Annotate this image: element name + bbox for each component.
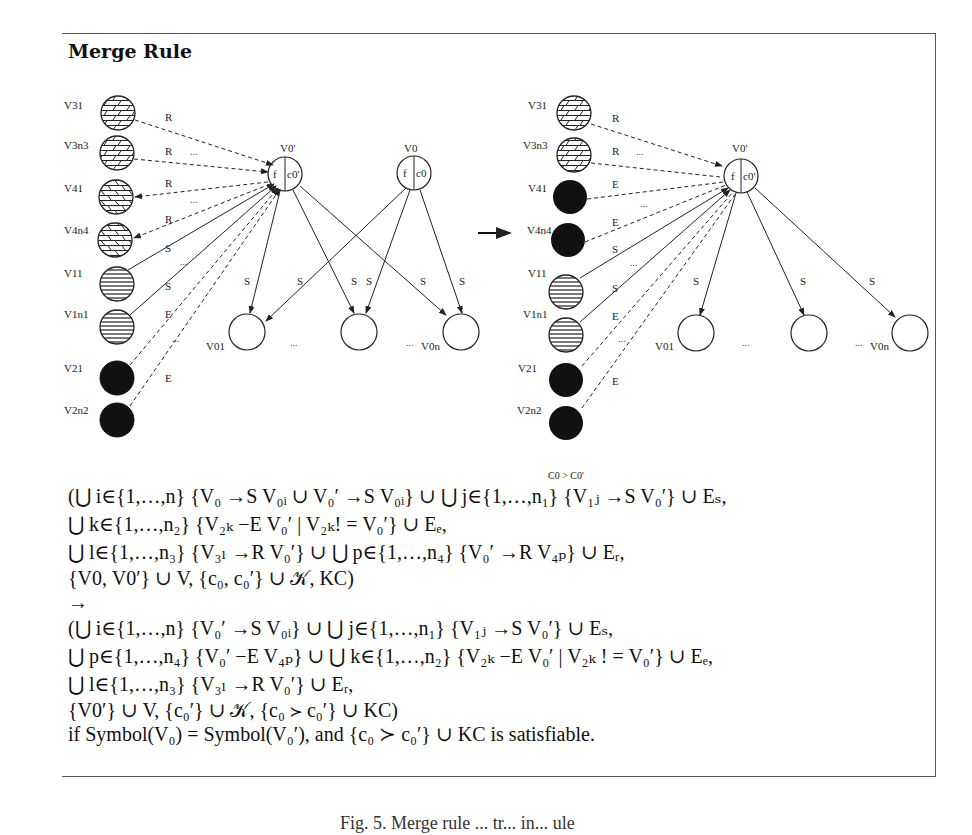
svg-text:c0': c0' <box>287 168 299 180</box>
figure-caption: Fig. 5. Merge rule ... tr... in... ule <box>340 813 575 834</box>
svg-text:S: S <box>351 275 357 287</box>
svg-text:f: f <box>731 170 735 182</box>
node-v21 <box>100 361 134 395</box>
svg-text:R: R <box>165 145 173 157</box>
svg-text:V41: V41 <box>528 182 547 194</box>
svg-text:R: R <box>165 177 173 189</box>
svg-text:f: f <box>403 167 407 179</box>
formula-line: ⋃ p∈{1,…,n₄} {V₀′ −E V₄ₚ} ∪ ⋃ k∈{1,…,n₂}… <box>68 644 713 668</box>
svg-text:S: S <box>693 275 699 287</box>
svg-text:V0n: V0n <box>870 340 889 352</box>
svg-text:...: ... <box>406 337 414 348</box>
node-v31 <box>101 96 135 130</box>
svg-text:S: S <box>244 275 250 287</box>
svg-text:S: S <box>165 242 171 254</box>
svg-text:V31: V31 <box>528 99 547 111</box>
node-label: V3n3 <box>64 139 89 151</box>
svg-text:E: E <box>612 216 619 228</box>
svg-text:...: ... <box>636 146 644 157</box>
formula-line: {V0′} ∪ V, {c₀′} ∪ 𝒦, {c₀ ≻ c₀′} ∪ KC) <box>68 698 398 722</box>
node-v2n2 <box>100 403 134 437</box>
svg-text:...: ... <box>630 257 638 268</box>
svg-text:R: R <box>165 213 173 225</box>
svg-text:...: ... <box>640 198 648 209</box>
node-label: V2n2 <box>64 404 88 416</box>
svg-text:E: E <box>165 308 172 320</box>
svg-text:R: R <box>612 112 620 124</box>
node-v1n1 <box>100 310 134 344</box>
svg-text:...: ... <box>618 333 626 344</box>
svg-text:c0': c0' <box>743 170 755 182</box>
svg-text:...: ... <box>190 146 198 157</box>
node-label: V11 <box>64 267 83 279</box>
svg-text:V1n1: V1n1 <box>523 308 547 320</box>
svg-text:E: E <box>165 372 172 384</box>
svg-text:S: S <box>366 275 372 287</box>
svg-text:S: S <box>420 275 426 287</box>
svg-text:...: ... <box>190 194 198 205</box>
svg-text:V11: V11 <box>528 267 547 279</box>
svg-text:S: S <box>297 275 303 287</box>
svg-text:c0: c0 <box>416 167 427 179</box>
svg-text:V3n3: V3n3 <box>523 139 548 151</box>
node-v11 <box>100 267 134 301</box>
node-label: V31 <box>64 99 83 111</box>
svg-text:R: R <box>165 111 173 123</box>
svg-text:V01: V01 <box>206 340 225 352</box>
node-v0mid <box>341 314 377 350</box>
formula-line: (⋃ i∈{1,…,n} {V₀ →S V₀ᵢ ∪ V₀′ →S V₀ᵢ} ∪ … <box>68 484 726 508</box>
formula-line: {V0, V0′} ∪ V, {c₀, c₀′} ∪ 𝒦, KC) <box>68 566 354 590</box>
svg-text:V2n2: V2n2 <box>517 404 541 416</box>
formula-line: ⋃ k∈{1,…,n₂} {V₂ₖ −E V₀′ | V₂ₖ! = V₀′} ∪… <box>68 512 447 536</box>
node-v01 <box>229 314 265 350</box>
formula-line: if Symbol(V₀) = Symbol(V₀′), and {c₀ ≻ c… <box>68 722 595 746</box>
svg-text:E: E <box>612 310 619 322</box>
node-label-v0: V0 <box>404 142 418 154</box>
node-v4n4 <box>98 223 132 257</box>
node-label: V21 <box>64 362 83 374</box>
svg-text:S: S <box>612 282 618 294</box>
svg-text:R: R <box>612 145 620 157</box>
svg-text:V21: V21 <box>518 362 537 374</box>
svg-text:...: ... <box>742 337 750 348</box>
formula-line: ⋃ l∈{1,…,n₃} {V₃ₗ →R V₀′} ∪ Eᵣ, <box>68 672 353 696</box>
svg-text:V4n4: V4n4 <box>527 224 552 236</box>
svg-text:V0n: V0n <box>421 340 440 352</box>
svg-text:E: E <box>612 178 619 190</box>
formula-line: (⋃ i∈{1,…,n} {V₀′ →S V₀ᵢ} ∪ ⋃ j∈{1,…,n₁}… <box>68 616 613 640</box>
node-label-v0prime: V0' <box>280 142 295 154</box>
svg-text:f: f <box>273 168 277 180</box>
left-graph: V31 V3n3 V41 V4n4 V11 V1n1 V21 V2n2 V0' … <box>64 96 479 437</box>
node-label: V1n1 <box>64 308 88 320</box>
svg-text:S: S <box>459 275 465 287</box>
node-v3n3 <box>100 136 134 170</box>
merge-rule-diagram: V31 V3n3 V41 V4n4 V11 V1n1 V21 V2n2 V0' … <box>0 0 972 460</box>
svg-text:V0': V0' <box>732 142 747 154</box>
svg-text:...: ... <box>172 333 180 344</box>
svg-text:S: S <box>800 275 806 287</box>
priority-annotation: C0 > C0' <box>548 470 584 481</box>
svg-text:V01: V01 <box>655 340 674 352</box>
svg-text:E: E <box>612 375 619 387</box>
svg-text:S: S <box>869 275 875 287</box>
node-v0n <box>443 314 479 350</box>
svg-text:...: ... <box>290 337 298 348</box>
formula-line: → <box>68 590 88 614</box>
node-v41 <box>99 180 133 214</box>
svg-text:S: S <box>612 243 618 255</box>
svg-text:...: ... <box>180 256 188 267</box>
node-label: V41 <box>64 182 83 194</box>
right-graph: V31 V3n3 V41 V4n4 V11 V1n1 V21 V2n2 V0' … <box>517 96 928 440</box>
formula-line: ⋃ l∈{1,…,n₃} {V₃ₗ →R V₀′} ∪ ⋃ p∈{1,…,n₄}… <box>68 540 624 564</box>
svg-text:...: ... <box>855 337 863 348</box>
node-label: V4n4 <box>64 224 89 236</box>
svg-text:S: S <box>165 280 171 292</box>
